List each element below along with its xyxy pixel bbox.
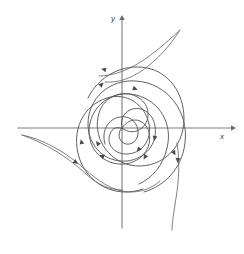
- direction-arrow-icon: [94, 140, 101, 147]
- y-axis-label: y: [110, 14, 116, 23]
- phase-portrait-svg: y x: [0, 0, 244, 254]
- trajectory-branch-4: [88, 67, 184, 166]
- trajectory-tail-upper-right: [105, 30, 180, 82]
- trajectory-branch-6: [99, 30, 180, 76]
- x-axis: [18, 125, 236, 131]
- y-axis: [119, 15, 125, 228]
- trajectory-tail-lower-left: [22, 135, 122, 190]
- trajectory-branch-2: [88, 81, 185, 192]
- direction-arrow-icon: [101, 66, 107, 72]
- trajectory-branch-3: [77, 96, 150, 192]
- trajectory-branch-7: [172, 143, 179, 230]
- y-axis-arrowhead: [119, 15, 125, 20]
- direction-arrow-icon: [132, 86, 138, 92]
- direction-arrow-icon: [152, 136, 158, 142]
- direction-arrow-icon: [171, 150, 178, 157]
- direction-arrow-icon: [78, 139, 84, 145]
- x-axis-label: x: [219, 132, 225, 141]
- trajectory-group: [22, 30, 185, 230]
- x-axis-arrowhead: [231, 125, 236, 131]
- figure-root: y x: [0, 0, 244, 254]
